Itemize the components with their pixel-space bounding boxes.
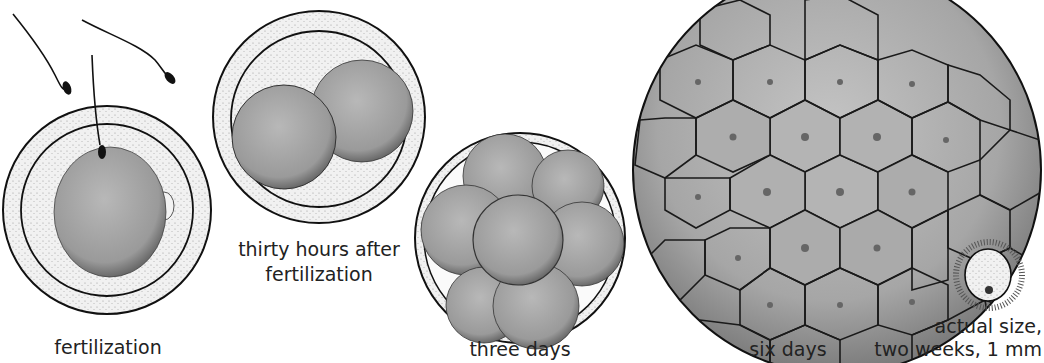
label-three-days: three days — [450, 337, 590, 361]
blastomere-left — [232, 85, 336, 189]
stage-fertilization — [3, 14, 211, 314]
label-six-days: six days — [718, 337, 858, 361]
sperm-tail-2 — [82, 20, 170, 78]
sperm-tail-1 — [13, 14, 66, 89]
embryo-development-diagram: fertilization thirty hours after fertili… — [0, 0, 1044, 363]
label-two-weeks: two weeks, 1 mm — [870, 337, 1042, 361]
diagram-illustration — [0, 0, 1044, 363]
embryo-disc — [985, 286, 993, 294]
label-thirty-hours-line2: fertilization — [229, 262, 409, 286]
stage-three-days — [415, 133, 625, 349]
label-thirty-hours-line1: thirty hours after — [229, 237, 409, 261]
sperm-head-entering — [98, 145, 106, 159]
ovum — [54, 147, 166, 277]
stage-six-days — [633, 0, 1044, 363]
blastomere-center — [473, 195, 563, 285]
label-fertilization: fertilization — [38, 335, 178, 359]
stage-thirty-hours — [213, 11, 425, 223]
label-actual-size: actual size, — [884, 314, 1042, 338]
